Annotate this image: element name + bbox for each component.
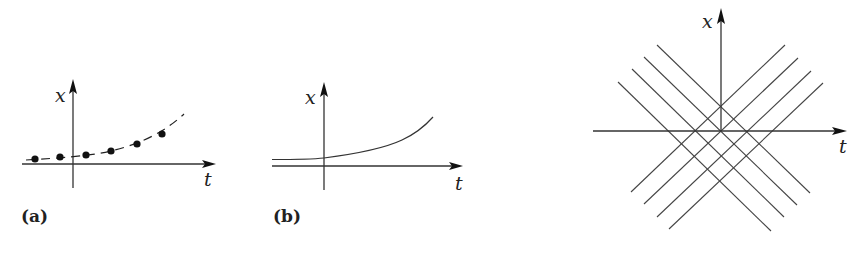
panel-b-exponential-curve <box>272 117 433 160</box>
panel-a-data-point <box>133 140 140 147</box>
panel-b-caption: (b) <box>273 206 301 226</box>
panel-c-x-label: x <box>702 10 713 32</box>
panel-a: x t (a) <box>21 79 216 226</box>
panel-b-x-label: x <box>305 86 316 108</box>
panel-b-t-label: t <box>455 172 463 194</box>
panel-a-t-label: t <box>204 168 212 190</box>
panel-a-data-point <box>158 130 165 137</box>
panel-c-t-label: t <box>839 135 847 157</box>
panel-a-data-point <box>56 153 63 160</box>
panel-a-data-point <box>31 155 38 162</box>
panel-a-data-point <box>107 147 114 154</box>
figure: x t (a) x t (b) x t <box>0 0 862 256</box>
panel-c: x t <box>593 8 847 231</box>
panel-b: x t (b) <box>272 82 463 226</box>
panel-a-caption: (a) <box>21 206 48 226</box>
panel-a-x-label: x <box>55 84 66 106</box>
panel-a-data-point <box>82 151 89 158</box>
